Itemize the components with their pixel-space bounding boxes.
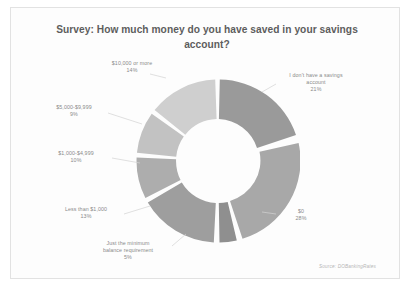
chart-title: Survey: How much money do you have saved… — [46, 22, 368, 52]
slice-label-percent: 21% — [276, 86, 356, 93]
slice-label-text-line2: account — [276, 79, 356, 86]
slice-label-5000-9999: $5,000-$9,999 9% — [38, 104, 110, 118]
donut-chart: Survey: How much money do you have saved… — [0, 0, 412, 289]
slice-label-1000-4999: $1,000-$4,999 10% — [40, 150, 112, 164]
slice-label-text: $0 — [298, 208, 304, 214]
slice-label-percent: 5% — [80, 254, 176, 261]
slice-label-percent: 14% — [96, 67, 168, 74]
slice-label-text: $1,000-$4,999 — [58, 150, 93, 156]
slice-label-text: Less than $1,000 — [65, 206, 107, 212]
slice-label-text: Just the minimum — [106, 240, 149, 246]
slice-label-text: $10,000 or more — [112, 60, 152, 66]
slice-label-no-savings-account: I don't have a savings account 21% — [276, 72, 356, 94]
slice-label-percent: 9% — [38, 111, 110, 118]
slice-label-percent: 10% — [40, 157, 112, 164]
slice-label-text-line2: balance requirement — [80, 247, 176, 254]
slice-label-text: I don't have a savings — [289, 72, 342, 78]
slice-label-less-than-1000: Less than $1,000 13% — [48, 206, 124, 220]
slice-label-minimum-balance: Just the minimum balance requirement 5% — [80, 240, 176, 262]
slice-label-percent: 13% — [48, 213, 124, 220]
slice-label-10000-or-more: $10,000 or more 14% — [96, 60, 168, 74]
slice-label-zero-dollars: $0 28% — [278, 208, 324, 222]
slice-label-text: $5,000-$9,999 — [56, 104, 91, 110]
slice-label-percent: 28% — [278, 215, 324, 222]
slice-zero-dollars[interactable] — [230, 143, 300, 239]
source-note: Source: DOBankingRates — [319, 264, 376, 269]
